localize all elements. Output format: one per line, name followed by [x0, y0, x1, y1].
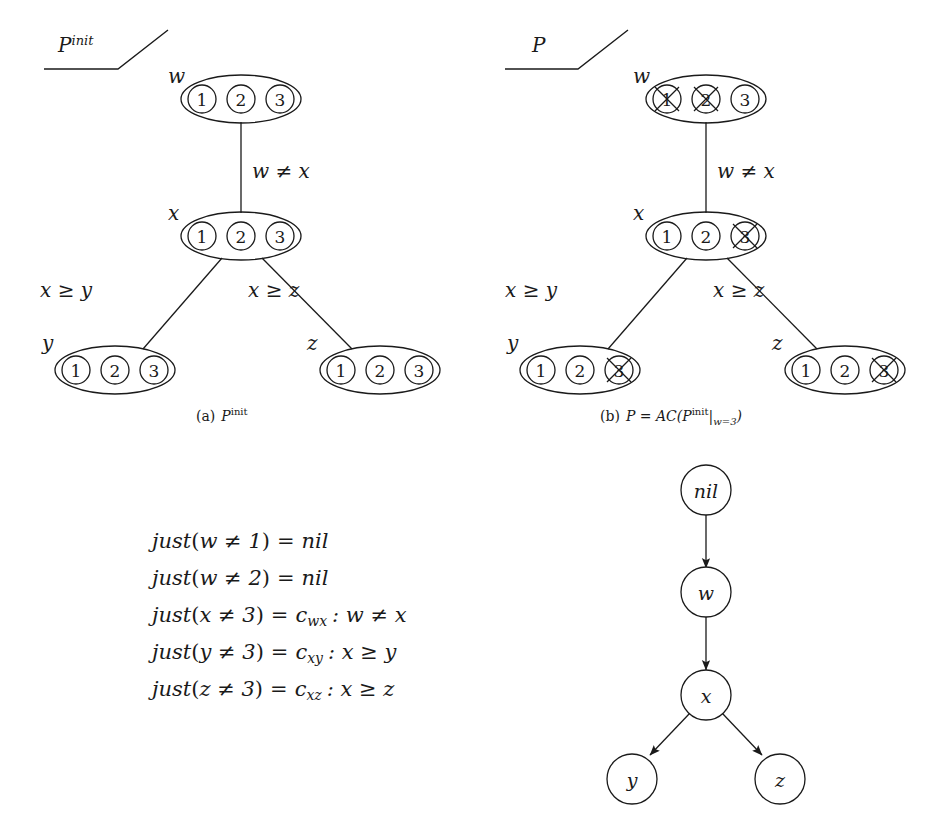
panel-b-node-w-value-3-text: 3 [740, 90, 751, 110]
panel-a-node-x-value-3: 3 [266, 222, 294, 250]
panel-b-node-z-value-3-text: 3 [879, 361, 890, 381]
justifications-block: just(w ≠ 1)=nil just(w ≠ 2)=nil just(x ≠… [148, 529, 407, 703]
implication-graph: nil w x y z [607, 465, 805, 804]
figure-container: Pinit w ≠ x x ≥ y x ≥ z w 1 2 3 [0, 0, 952, 818]
panel-b-node-x-value-2: 2 [692, 222, 720, 250]
panel-b-node-x-value-2-text: 2 [701, 227, 712, 247]
panel-b-node-y-value-3-text: 3 [614, 361, 625, 381]
implication-node-w-label: w [698, 582, 714, 604]
panel-a-node-z-value-2-text: 2 [375, 361, 386, 381]
panel-a-node-x-value-2-text: 2 [236, 227, 247, 247]
panel-a-node-z-value-1: 1 [327, 356, 355, 384]
panel-b-marker-label: P [531, 33, 546, 57]
panel-b-edge-label-x-z: x ≥ z [713, 278, 765, 302]
panel-a-edge-label-x-z: x ≥ z [248, 278, 300, 302]
panel-a-node-z-value-2: 2 [366, 356, 394, 384]
implication-node-y-label: y [626, 769, 638, 791]
panel-b-caption: (b)P = AC(Pinit|w=3) [600, 406, 742, 427]
panel-b-node-x-value-1: 1 [653, 222, 681, 250]
panel-a-node-w-value-1: 1 [188, 85, 216, 113]
panel-a-node-y-label: y [41, 331, 54, 355]
panel-b-node-z-value-2-text: 2 [840, 361, 851, 381]
panel-b-edge-x-y [608, 258, 687, 349]
panel-b-node-x-value-3: 3 [731, 222, 759, 250]
panel-b-node-w-value-2: 2 [692, 85, 720, 113]
panel-a-node-w: w 1 2 3 [168, 64, 301, 123]
panel-a-node-z-value-3-text: 3 [414, 361, 425, 381]
panel-b-node-z-value-2: 2 [831, 356, 859, 384]
panel-a-node-y-value-1: 1 [62, 356, 90, 384]
implication-node-z-label: z [774, 769, 786, 791]
panel-b-node-y-value-3: 3 [605, 356, 633, 384]
panel-a-marker-label: Pinit [57, 33, 94, 57]
panel-a-edge-x-y [143, 258, 222, 349]
panel-a-node-y-value-3: 3 [140, 356, 168, 384]
panel-a-node-w-value-2: 2 [227, 85, 255, 113]
panel-b-node-x: x 1 2 3 [633, 201, 766, 260]
panel-b-node-w-label: w [633, 64, 650, 88]
panel-a: Pinit w ≠ x x ≥ y x ≥ z w 1 2 3 [40, 30, 440, 424]
panel-a-node-x-value-2: 2 [227, 222, 255, 250]
panel-b-node-w-value-1: 1 [653, 85, 681, 113]
implication-node-z: z [755, 754, 805, 804]
panel-b-node-z-value-1: 1 [792, 356, 820, 384]
panel-a-edge-label-x-y: x ≥ y [40, 278, 93, 302]
panel-a-node-w-value-1-text: 1 [197, 90, 208, 110]
panel-b-node-y-value-2: 2 [566, 356, 594, 384]
justification-line-2: just(w ≠ 2)=nil [148, 566, 329, 590]
panel-a-node-x-value-1-text: 1 [197, 227, 208, 247]
panel-a-node-y-value-3-text: 3 [149, 361, 160, 381]
panel-b-node-z: z 1 2 3 [771, 331, 905, 394]
panel-a-node-w-label: w [168, 64, 185, 88]
panel-a-node-y-value-2-text: 2 [110, 361, 121, 381]
justification-line-4: just(y ≠ 3)=cxy: x ≥ y [148, 640, 398, 666]
panel-b-node-w-value-2-text: 2 [701, 90, 712, 110]
panel-a-node-y-value-2: 2 [101, 356, 129, 384]
implication-node-w: w [681, 567, 731, 617]
panel-b-node-y-value-1: 1 [527, 356, 555, 384]
implication-node-x-label: x [701, 685, 712, 707]
panel-b-node-x-value-3-text: 3 [740, 227, 751, 247]
panel-b-marker-line [505, 30, 628, 69]
justification-line-1: just(w ≠ 1)=nil [148, 529, 329, 553]
panel-a-node-x-label: x [168, 201, 179, 225]
panel-a-node-w-value-2-text: 2 [236, 90, 247, 110]
implication-node-nil: nil [681, 465, 731, 515]
panel-b-node-y-value-1-text: 1 [536, 361, 547, 381]
panel-b-node-y-value-2-text: 2 [575, 361, 586, 381]
panel-a-node-x-value-1: 1 [188, 222, 216, 250]
panel-a-edge-label-w-x: w ≠ x [252, 159, 310, 183]
panel-a-node-w-value-3-text: 3 [275, 90, 286, 110]
implication-edge-x-z [722, 713, 762, 755]
panel-a-node-y-value-1-text: 1 [71, 361, 82, 381]
panel-b-node-z-value-3: 3 [870, 356, 898, 384]
panel-a-node-w-value-3: 3 [266, 85, 294, 113]
panel-b-node-w-value-1-text: 1 [662, 90, 673, 110]
justification-line-3: just(x ≠ 3)=cwx: w ≠ x [148, 603, 407, 629]
panel-b-node-x-value-1-text: 1 [662, 227, 673, 247]
panel-b-edge-label-w-x: w ≠ x [717, 159, 775, 183]
panel-b-node-w-value-3: 3 [731, 85, 759, 113]
panel-a-caption: (a)Pinit [196, 406, 248, 424]
panel-b-node-x-label: x [633, 201, 644, 225]
panel-b-node-y: y 1 2 3 [506, 331, 640, 394]
implication-edge-x-y [650, 713, 690, 755]
panel-b: P w ≠ x x ≥ y x ≥ z w 1 2 [505, 30, 905, 427]
panel-a-node-z-label: z [306, 331, 318, 355]
panel-a-node-z: z 1 2 3 [306, 331, 440, 394]
panel-b-node-z-label: z [771, 331, 783, 355]
implication-node-y: y [607, 754, 657, 804]
panel-a-node-x: x 1 2 3 [168, 201, 301, 260]
justification-line-5: just(z ≠ 3)=cxz: x ≥ z [148, 677, 395, 703]
panel-a-node-y: y 1 2 3 [41, 331, 175, 394]
implication-node-x: x [681, 670, 731, 720]
panel-b-node-y-label: y [506, 331, 519, 355]
panel-b-node-z-value-1-text: 1 [801, 361, 812, 381]
implication-node-nil-label: nil [694, 480, 718, 502]
panel-b-edge-label-x-y: x ≥ y [505, 278, 558, 302]
panel-a-node-z-value-3: 3 [405, 356, 433, 384]
panel-a-node-z-value-1-text: 1 [336, 361, 347, 381]
panel-a-node-x-value-3-text: 3 [275, 227, 286, 247]
panel-b-node-w: w 1 2 3 [633, 64, 766, 123]
